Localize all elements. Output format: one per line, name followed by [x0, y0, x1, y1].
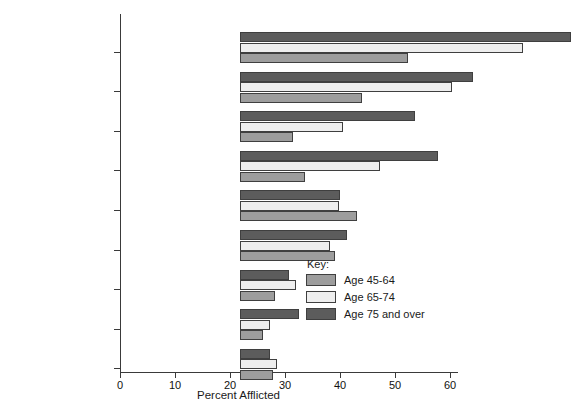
legend-item-age-65-74: Age 65-74	[306, 291, 425, 303]
bar	[240, 270, 289, 280]
bar	[240, 111, 415, 121]
legend-label: Age 65-74	[344, 291, 395, 303]
legend-swatch-icon	[306, 274, 336, 286]
bar-group: Chronic Sinusitis	[120, 190, 460, 230]
bar	[240, 349, 270, 359]
x-axis-title: Percent Afflicted	[0, 389, 477, 401]
legend-item-age-75-and-over: Age 75 and over	[306, 308, 425, 320]
bar	[240, 330, 263, 340]
bar-group: Hypertensive Disease	[120, 72, 460, 112]
bar	[240, 230, 347, 240]
y-tick	[114, 329, 121, 330]
legend-title: Key:	[307, 258, 425, 270]
y-tick	[114, 91, 121, 92]
bar	[240, 32, 571, 42]
bar	[240, 151, 438, 161]
bar	[240, 93, 362, 103]
legend-swatch-icon	[306, 308, 336, 320]
x-tick	[450, 372, 451, 378]
bar	[240, 172, 305, 182]
bar	[240, 201, 339, 211]
bar-group: Arthritis	[120, 32, 460, 72]
y-tick	[114, 210, 121, 211]
bar	[240, 359, 277, 369]
bar	[240, 309, 299, 319]
bar	[240, 291, 275, 301]
x-tick	[230, 372, 231, 378]
y-tick	[114, 289, 121, 290]
bar	[240, 53, 408, 63]
x-tick	[120, 372, 121, 378]
bar	[240, 211, 357, 221]
x-tick	[175, 372, 176, 378]
bar	[240, 43, 523, 53]
bar-group: Heart Conditions	[120, 151, 460, 191]
y-tick	[114, 250, 121, 251]
legend-label: Age 75 and over	[344, 308, 425, 320]
x-tick	[340, 372, 341, 378]
bar	[240, 122, 343, 132]
x-tick	[285, 372, 286, 378]
bar	[240, 190, 340, 200]
legend-label: Age 45-64	[344, 274, 395, 286]
legend-item-age-45-64: Age 45-64	[306, 274, 425, 286]
y-tick	[114, 170, 121, 171]
bar-group: Hearing Impairments	[120, 111, 460, 151]
bar	[240, 280, 296, 290]
bar	[240, 72, 473, 82]
y-tick	[114, 131, 121, 132]
bar	[240, 161, 380, 171]
chart-legend: Key: Age 45-64 Age 65-74 Age 75 and over	[306, 258, 425, 325]
bar	[240, 370, 273, 380]
y-tick	[114, 368, 121, 369]
y-tick	[114, 52, 121, 53]
bar	[240, 82, 452, 92]
bar	[240, 320, 270, 330]
bar	[240, 132, 293, 142]
bar	[240, 241, 330, 251]
legend-swatch-icon	[306, 291, 336, 303]
x-tick	[395, 372, 396, 378]
